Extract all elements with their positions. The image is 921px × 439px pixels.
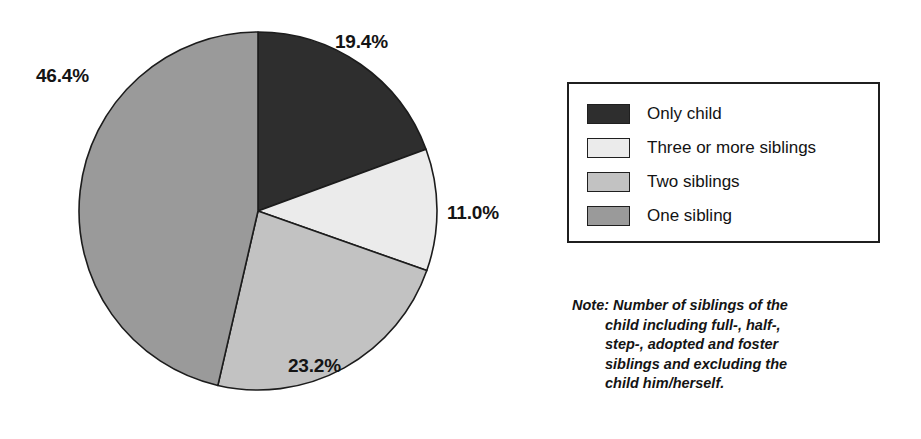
pie-slice-label-one-sibling: 46.4% — [36, 65, 89, 87]
legend-item-label: One sibling — [647, 206, 732, 226]
chart-legend: Only child Three or more siblings Two si… — [567, 82, 880, 243]
note-line: child including full-, half-, — [572, 316, 892, 336]
note-line: step-, adopted and foster — [572, 335, 892, 355]
pie-chart-area: 19.4% 11.0% 23.2% 46.4% — [0, 0, 540, 439]
legend-item: Only child — [587, 97, 878, 131]
legend-swatch-icon — [587, 138, 630, 158]
legend-swatch-icon — [587, 172, 630, 192]
legend-swatch-icon — [587, 206, 630, 226]
legend-item: Two siblings — [587, 165, 878, 199]
pie-slice-label-three-or-more-siblings: 11.0% — [447, 202, 499, 224]
legend-item-label: Two siblings — [647, 172, 740, 192]
legend-item-label: Only child — [647, 104, 722, 124]
legend-item: One sibling — [587, 199, 878, 233]
note-line: child him/herself. — [572, 374, 892, 394]
note-line: Note: Number of siblings of the — [572, 296, 892, 316]
legend-swatch-icon — [587, 104, 630, 124]
legend-item: Three or more siblings — [587, 131, 878, 165]
note-line: siblings and excluding the — [572, 355, 892, 375]
pie-slice-label-only-child: 19.4% — [335, 31, 388, 53]
chart-note: Note: Number of siblings of the child in… — [572, 296, 892, 394]
legend-item-label: Three or more siblings — [647, 138, 816, 158]
pie-slice-label-two-siblings: 23.2% — [288, 355, 341, 377]
pie-chart-figure: 19.4% 11.0% 23.2% 46.4% Only child Three… — [0, 0, 921, 439]
